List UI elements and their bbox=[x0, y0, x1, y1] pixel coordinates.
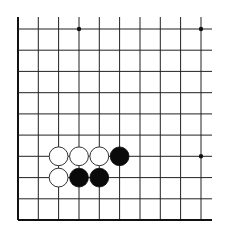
stones bbox=[49, 147, 129, 187]
star-point bbox=[199, 154, 203, 158]
star-point bbox=[77, 27, 81, 31]
white-stone bbox=[49, 147, 68, 166]
black-stone bbox=[70, 168, 89, 187]
go-board-diagram bbox=[0, 0, 227, 235]
black-stone bbox=[110, 147, 129, 166]
white-stone bbox=[70, 147, 89, 166]
white-stone bbox=[49, 168, 68, 187]
go-board bbox=[0, 0, 227, 235]
black-stone bbox=[90, 168, 109, 187]
grid-lines bbox=[18, 17, 212, 220]
white-stone bbox=[90, 147, 109, 166]
star-point bbox=[199, 27, 203, 31]
